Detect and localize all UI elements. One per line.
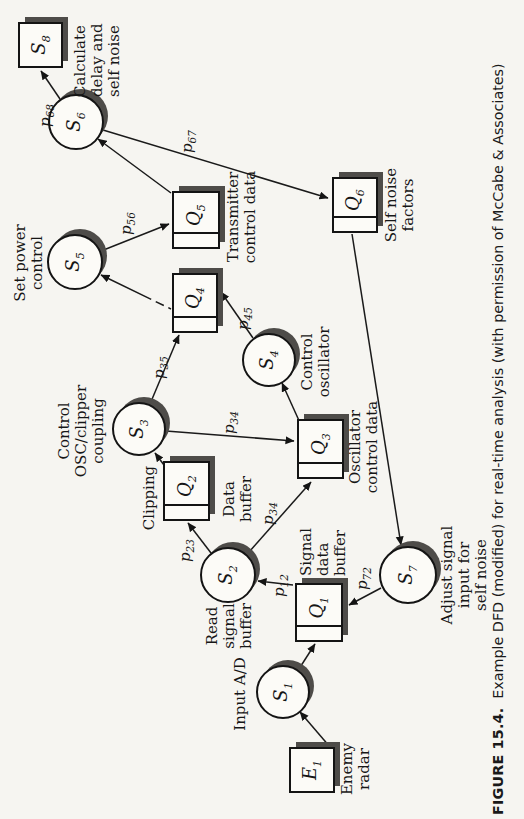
figure-caption: FIGURE 15.4.Example DFD (modified) for r… bbox=[490, 3, 506, 815]
store-band bbox=[297, 625, 341, 640]
process-s7-id: S7 bbox=[397, 565, 419, 584]
flow-e1-s1 bbox=[300, 712, 330, 747]
label-control-osc-clipper: Control OSC/clipper coupling bbox=[56, 385, 107, 477]
process-s3-id: S3 bbox=[128, 419, 150, 438]
store-q4-id: Q4 bbox=[184, 287, 206, 309]
store-q1-id: Q1 bbox=[308, 597, 330, 619]
flow-s7-q1 bbox=[349, 588, 381, 605]
label-self-noise-factors: Self noise factors bbox=[383, 168, 417, 242]
external-e1: E1 bbox=[289, 747, 335, 793]
label-signal-data-buffer: Signal data buffer bbox=[298, 528, 349, 576]
label-clipping: Clipping bbox=[141, 466, 158, 530]
process-s6-id: S6 bbox=[65, 112, 87, 131]
flow-label-p34-lower: p34 bbox=[261, 502, 279, 525]
flow-s6-s8 bbox=[41, 71, 60, 99]
store-q5: Q5 bbox=[172, 191, 220, 249]
label-enemy-radar: Enemy radar bbox=[339, 743, 373, 795]
flow-label-p12: p12 bbox=[272, 574, 290, 597]
flow-q4-s5 bbox=[101, 275, 171, 309]
label-input-ad: Input A/D bbox=[232, 657, 249, 731]
label-read-signal-buffer: Read signal buffer bbox=[204, 603, 255, 649]
store-q4: Q4 bbox=[172, 273, 218, 333]
process-s4: S4 bbox=[242, 333, 296, 387]
store-q6-id: Q6 bbox=[344, 189, 366, 211]
store-band bbox=[165, 504, 208, 519]
label-oscillator-control-data: Oscillator control data bbox=[347, 401, 381, 493]
store-q2-id: Q2 bbox=[176, 475, 198, 497]
flow-q6-s7 bbox=[352, 234, 401, 545]
flow-label-p45: p45 bbox=[236, 307, 254, 330]
label-control-oscillator: Control oscillator bbox=[299, 327, 333, 398]
process-s8-id: S8 bbox=[30, 35, 52, 54]
store-band bbox=[174, 232, 218, 247]
flow-s1-q1 bbox=[297, 644, 315, 672]
flow-label-p23: p23 bbox=[178, 539, 196, 562]
process-s4-id: S4 bbox=[258, 350, 280, 369]
label-transmitter-control-data: Transmitter control data bbox=[225, 171, 259, 263]
flow-label-p56: p56 bbox=[119, 212, 137, 235]
label-data-buffer: Data buffer bbox=[221, 476, 255, 522]
label-calculate-delay: Calculate delay and self noise bbox=[72, 23, 123, 97]
process-s7: S7 bbox=[379, 546, 437, 604]
external-e1-id: E1 bbox=[301, 760, 323, 780]
store-band bbox=[174, 316, 216, 331]
process-s2-id: S2 bbox=[217, 565, 239, 584]
store-q5-id: Q5 bbox=[185, 204, 207, 226]
flow-label-p68: p68 bbox=[38, 104, 56, 127]
flow-label-p72: p72 bbox=[355, 567, 373, 590]
label-adjust-signal: Adjust signal input for self noise bbox=[439, 526, 490, 625]
figure-number: FIGURE 15.4. bbox=[490, 708, 506, 815]
process-s1: S1 bbox=[256, 665, 310, 719]
process-s2: S2 bbox=[200, 547, 256, 603]
process-s5-id: S5 bbox=[64, 252, 86, 271]
flow-label-p67: p67 bbox=[180, 130, 198, 153]
process-s6: S6 bbox=[48, 94, 104, 150]
process-s8: S8 bbox=[18, 22, 63, 68]
label-set-power-control: Set power control bbox=[12, 224, 46, 301]
process-s5: S5 bbox=[47, 234, 103, 290]
figure-caption-text: Example DFD (modified) for real-time ana… bbox=[490, 63, 506, 698]
store-q3-id: Q3 bbox=[310, 433, 332, 455]
store-q3: Q3 bbox=[297, 419, 344, 479]
store-q1: Q1 bbox=[295, 583, 343, 642]
flow-label-p35: p35 bbox=[152, 356, 170, 379]
flow-s6-q6 bbox=[103, 130, 328, 198]
process-s3: S3 bbox=[112, 402, 166, 456]
flow-label-p34-upper: p34 bbox=[222, 411, 240, 434]
store-q6: Q6 bbox=[332, 177, 378, 233]
process-s1-id: S1 bbox=[272, 682, 294, 701]
dfd-diagram: E1 S8 S1 S2 S3 S4 S5 S6 S7 Q1 Q2 Q3 Q4 bbox=[0, 0, 524, 819]
store-band bbox=[299, 462, 342, 477]
store-q2: Q2 bbox=[163, 461, 210, 521]
store-band bbox=[334, 216, 376, 231]
